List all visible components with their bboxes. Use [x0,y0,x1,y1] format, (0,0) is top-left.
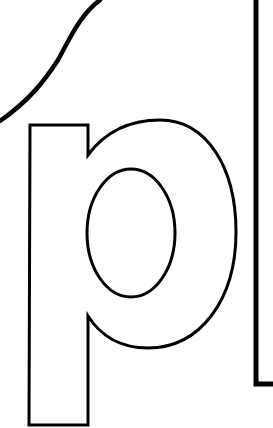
decorative-curve [0,0,100,121]
letter-p-body-outline [29,120,236,425]
letter-p-counter-outline [87,169,175,297]
letter-p-outline [0,0,273,428]
frame-border [256,0,273,384]
